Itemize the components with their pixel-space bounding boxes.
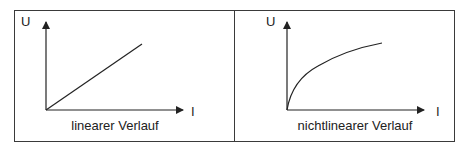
x-axis-label-left: I [191,104,195,119]
nonlinear-curve [287,43,382,110]
caption-right: nichtlinearer Verlauf [280,118,430,133]
linear-curve [46,44,142,110]
linear-chart [46,22,183,110]
nonlinear-chart [287,22,424,110]
y-axis-label-left: U [21,14,30,29]
caption-left: linearer Verlauf [46,118,184,133]
x-axis-label-right: I [436,104,440,119]
y-axis-label-right: U [266,14,275,29]
